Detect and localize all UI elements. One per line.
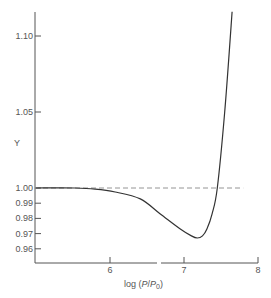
x-tick-label: 6	[107, 265, 112, 275]
x-axis-label: log (P/P0)	[124, 279, 163, 290]
x-tick-label: 8	[255, 265, 260, 275]
y-tick-label: 1.05	[15, 107, 33, 117]
chart: 0.960.970.980.991.001.051.10 678 Y log (…	[0, 0, 271, 298]
x-tick-label: 7	[181, 265, 186, 275]
data-curve	[36, 12, 232, 238]
y-tick-label: 1.10	[15, 31, 33, 41]
axes	[35, 12, 258, 263]
y-tick-label: 0.97	[15, 229, 33, 239]
x-ticks: 678	[107, 257, 260, 275]
y-axis-label: Y	[14, 138, 20, 148]
y-tick-label: 0.98	[15, 213, 33, 223]
y-tick-label: 0.99	[15, 198, 33, 208]
y-tick-label: 0.96	[15, 244, 33, 254]
y-tick-label: 1.00	[15, 183, 33, 193]
